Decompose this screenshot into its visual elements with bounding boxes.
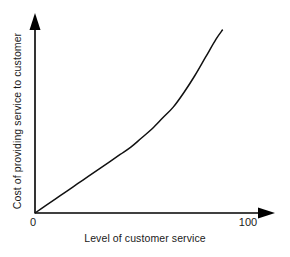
chart-plot-area: 0 100 — [0, 0, 290, 257]
y-axis-arrow-icon — [30, 13, 41, 30]
chart-container: 0 100 Level of customer service Cost of … — [0, 0, 290, 257]
cost-curve-line — [35, 30, 222, 213]
y-axis-title: Cost of providing service to customer — [11, 21, 23, 221]
x-tick-label-100: 100 — [239, 216, 257, 228]
x-axis-arrow-icon — [258, 208, 275, 219]
x-axis-title: Level of customer service — [0, 232, 290, 244]
x-tick-label-0: 0 — [30, 216, 36, 228]
